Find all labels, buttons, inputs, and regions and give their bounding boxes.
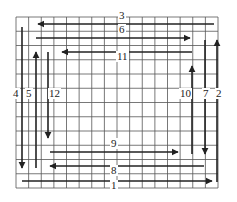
arrow-label-5: 5 xyxy=(25,88,33,99)
arrow-label-2: 2 xyxy=(215,88,223,99)
arrow-label-8: 8 xyxy=(110,165,118,176)
arrow-label-1: 1 xyxy=(110,180,118,191)
arrow-label-4: 4 xyxy=(12,88,20,99)
arrow-label-10: 10 xyxy=(179,88,192,99)
arrow-label-7: 7 xyxy=(202,88,210,99)
grid-lines xyxy=(16,17,218,188)
arrows-group xyxy=(22,24,217,182)
arrow-label-9: 9 xyxy=(110,138,118,149)
arrow-label-3: 3 xyxy=(118,10,126,21)
arrow-label-11: 11 xyxy=(116,51,129,62)
arrow-label-12: 12 xyxy=(48,88,61,99)
arrow-label-6: 6 xyxy=(118,24,126,35)
